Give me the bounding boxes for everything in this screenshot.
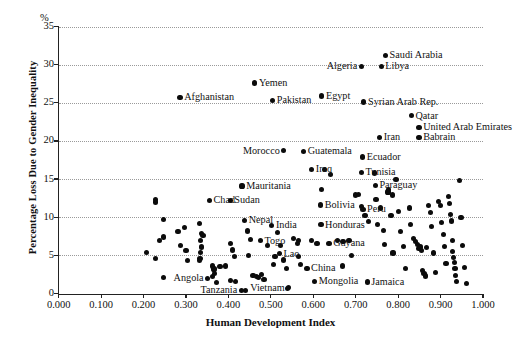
- data-point: [245, 228, 250, 233]
- data-point-labeled: [285, 286, 290, 291]
- data-point-labeled: [377, 135, 382, 140]
- x-tick: [185, 294, 186, 298]
- x-tick-label: 1.000: [460, 300, 506, 311]
- data-point-labeled: [312, 279, 317, 284]
- data-point: [228, 241, 233, 246]
- data-point: [198, 238, 203, 243]
- data-point-labeled: [416, 135, 421, 140]
- data-point-label: Saudi Arabia: [390, 50, 443, 60]
- data-point: [447, 201, 452, 206]
- data-point: [407, 205, 412, 210]
- data-point-label: Qatar: [415, 111, 438, 121]
- data-point: [396, 209, 401, 214]
- data-point-labeled: [360, 207, 365, 212]
- data-point: [462, 265, 467, 270]
- data-point: [403, 266, 408, 271]
- x-tick-label: 0.200: [121, 300, 167, 311]
- y-tick: [54, 64, 58, 65]
- data-point-labeled: [318, 222, 323, 227]
- gridline: [59, 255, 483, 256]
- data-point-label: Mongolia: [319, 276, 359, 286]
- data-point: [373, 197, 378, 202]
- data-point: [314, 241, 319, 246]
- data-point-label: Tanzania: [201, 285, 238, 295]
- data-point-labeled: [416, 125, 421, 130]
- y-tick: [54, 102, 58, 103]
- data-point: [161, 275, 166, 280]
- data-point-labeled: [326, 241, 331, 246]
- data-point: [228, 278, 233, 283]
- data-point: [439, 220, 444, 225]
- data-point: [452, 260, 457, 265]
- data-point: [309, 238, 314, 243]
- data-point-labeled: [252, 80, 257, 85]
- data-point-labeled: [359, 64, 364, 69]
- data-point: [453, 273, 458, 278]
- x-tick-label: 0.800: [375, 300, 421, 311]
- data-point: [161, 234, 166, 239]
- data-point-labeled: [379, 64, 384, 69]
- data-point-label: Mauritania: [246, 181, 291, 191]
- x-tick-label: 0.900: [418, 300, 464, 311]
- data-point-label: Peru: [367, 204, 386, 214]
- data-point: [198, 250, 203, 255]
- data-point-labeled: [304, 266, 309, 271]
- x-tick: [101, 294, 102, 298]
- data-point: [390, 250, 395, 255]
- y-tick: [54, 140, 58, 141]
- x-tick-label: 0.400: [205, 300, 251, 311]
- data-point-labeled: [309, 167, 314, 172]
- data-point-labeled: [228, 198, 233, 203]
- data-point: [182, 225, 187, 230]
- data-point-labeled: [383, 53, 388, 58]
- data-point: [426, 203, 431, 208]
- data-point: [356, 192, 361, 197]
- data-point-labeled: [207, 198, 212, 203]
- data-point: [298, 262, 303, 267]
- data-point-label: China: [311, 263, 335, 273]
- data-point-labeled: [409, 113, 414, 118]
- data-point: [441, 232, 446, 237]
- data-point: [431, 250, 436, 255]
- data-point-labeled: [301, 149, 306, 154]
- data-point: [401, 244, 406, 249]
- data-point: [450, 249, 455, 254]
- x-tick: [482, 294, 483, 298]
- gridline: [59, 65, 483, 66]
- data-point: [429, 224, 434, 229]
- data-point-label: Honduras: [325, 220, 365, 230]
- data-point-label: Togo: [264, 236, 285, 246]
- data-point: [408, 222, 413, 227]
- data-point: [319, 187, 324, 192]
- data-point-label: Libya: [385, 61, 409, 71]
- y-tick-label: 35: [28, 21, 54, 32]
- data-point: [428, 210, 433, 215]
- data-point-label: India: [276, 220, 297, 230]
- data-point: [296, 238, 301, 243]
- data-point-label: Egypt: [326, 91, 350, 101]
- data-point: [246, 253, 251, 258]
- data-point-label: Iran: [384, 132, 400, 142]
- x-tick-label: 0.300: [163, 300, 209, 311]
- data-point-label: Angola: [174, 273, 204, 283]
- data-point-label: Sudan: [234, 195, 259, 205]
- x-tick: [313, 294, 314, 298]
- data-point: [175, 229, 180, 234]
- data-point-labeled: [360, 154, 365, 159]
- data-point: [197, 221, 202, 226]
- data-point-label: Guatemala: [308, 146, 352, 156]
- data-point: [398, 229, 403, 234]
- data-point-labeled: [258, 238, 263, 243]
- data-point: [424, 245, 429, 250]
- y-tick: [54, 255, 58, 256]
- scatter-chart: % Percentage Loss Due to Gender Inequali…: [0, 0, 517, 341]
- x-tick-label: 0.700: [333, 300, 379, 311]
- x-tick: [355, 294, 356, 298]
- data-point-labeled: [239, 183, 244, 188]
- data-point-labeled: [361, 99, 366, 104]
- data-point: [458, 215, 463, 220]
- data-point-label: Babrain: [423, 132, 455, 142]
- data-point-labeled: [319, 93, 324, 98]
- gridline: [59, 141, 483, 142]
- data-point-labeled: [205, 276, 210, 281]
